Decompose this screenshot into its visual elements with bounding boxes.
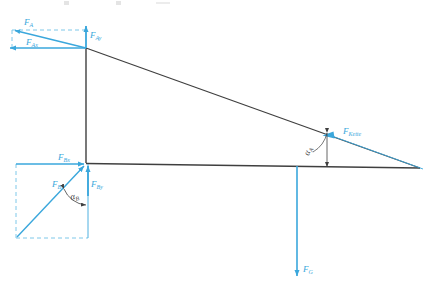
f-by-label: FBy bbox=[90, 179, 103, 190]
f-g-label: FG bbox=[302, 264, 314, 275]
f-ax-label: FAx bbox=[25, 37, 38, 48]
f-b-arrow bbox=[17, 166, 84, 237]
member-horizontal-beam bbox=[86, 164, 420, 169]
f-kette-label: FKette bbox=[342, 126, 361, 137]
force-diagram-figure: FKette αA FG bbox=[0, 0, 425, 290]
f-kette-arrowhead bbox=[323, 131, 335, 138]
force-diagram-canvas: FKette αA FG bbox=[0, 0, 425, 290]
f-b-label: FB bbox=[51, 179, 62, 190]
force-f-kette-group: FKette bbox=[323, 126, 424, 169]
force-group-b: FBx FB FBy αB bbox=[16, 152, 103, 238]
force-group-a: FA FAx FAy bbox=[10, 17, 102, 48]
angle-alpha-a-group: αA bbox=[301, 133, 327, 167]
f-bx-label: FBx bbox=[57, 152, 70, 163]
alpha-a-label: αA bbox=[301, 145, 314, 157]
f-ay-label: FAy bbox=[89, 30, 102, 41]
force-f-g-group: FG bbox=[297, 166, 314, 276]
f-kette-line bbox=[329, 135, 423, 169]
f-a-label: FA bbox=[23, 17, 34, 28]
angle-alpha-b-group: αB bbox=[64, 189, 86, 205]
cropped-top-text bbox=[64, 1, 170, 5]
